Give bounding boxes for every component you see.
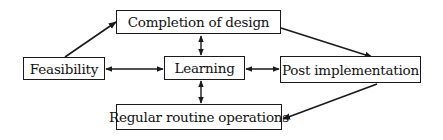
node-label: Completion of design [128,14,270,30]
node-label: Post implementation [282,62,419,78]
edge-completion-to-post [281,28,372,57]
node-completion-of-design: Completion of design [116,10,281,34]
node-post-implementation: Post implementation [280,56,421,83]
node-learning: Learning [164,56,245,80]
node-label: Regular routine operations [109,109,289,125]
node-label: Feasibility [30,61,98,77]
edge-post-to-regular [283,84,377,119]
diagram-canvas: Completion of design Feasibility Learnin… [0,0,443,140]
edge-feasibility-to-completion [65,22,116,57]
node-regular-routine-operations: Regular routine operations [116,104,282,130]
node-label: Learning [174,60,234,76]
node-feasibility: Feasibility [23,57,105,80]
